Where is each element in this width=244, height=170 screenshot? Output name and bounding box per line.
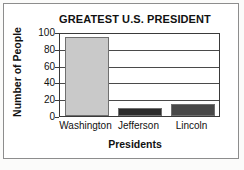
x-axis-tick-label: Washington [59,120,112,131]
y-axis-tick-labels: 020406080100 [17,33,55,117]
chart-figure: GREATEST U.S. PRESIDENT Number of People… [0,0,244,170]
y-axis-tick-label: 100 [21,28,55,38]
x-axis-tick-labels: WashingtonJeffersonLincoln [59,120,220,134]
chart-title: GREATEST U.S. PRESIDENT [40,13,230,25]
bar-slot [166,34,219,116]
x-axis-label: Presidents [40,138,230,150]
bar-slot [113,34,166,116]
x-axis-tick-label: Jefferson [112,120,165,131]
x-axis-tick-label: Lincoln [165,120,218,131]
y-axis-tick-label: 80 [21,45,55,55]
bar-slot [60,34,113,116]
bar-series [60,34,219,116]
bar [65,37,109,116]
y-axis-tick-label: 60 [21,62,55,72]
y-axis-tick-label: 40 [21,78,55,88]
bar [171,104,215,116]
y-axis-tick-label: 0 [21,112,55,122]
bar [118,108,162,116]
y-axis-tick-label: 20 [21,95,55,105]
y-axis-tick-mark [55,117,59,118]
